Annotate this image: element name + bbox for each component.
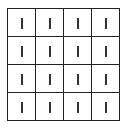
board-cell-r3-c0[interactable] <box>8 93 36 121</box>
vertical-line-icon <box>77 46 79 57</box>
game-board <box>7 8 120 121</box>
board-cell-r1-c3[interactable] <box>92 37 120 65</box>
board-cell-r3-c1[interactable] <box>36 93 64 121</box>
board-cell-r2-c1[interactable] <box>36 65 64 93</box>
board-cell-r1-c1[interactable] <box>36 37 64 65</box>
board-cell-r0-c3[interactable] <box>92 9 120 37</box>
board-cell-r2-c3[interactable] <box>92 65 120 93</box>
vertical-line-icon <box>21 46 23 57</box>
vertical-line-icon <box>105 18 107 29</box>
vertical-line-icon <box>49 102 51 113</box>
vertical-line-icon <box>77 102 79 113</box>
vertical-line-icon <box>105 102 107 113</box>
vertical-line-icon <box>21 102 23 113</box>
vertical-line-icon <box>105 74 107 85</box>
vertical-line-icon <box>77 74 79 85</box>
vertical-line-icon <box>49 18 51 29</box>
vertical-line-icon <box>49 74 51 85</box>
board-cell-r2-c0[interactable] <box>8 65 36 93</box>
board-cell-r3-c3[interactable] <box>92 93 120 121</box>
vertical-line-icon <box>21 74 23 85</box>
board-cell-r0-c0[interactable] <box>8 9 36 37</box>
board-cell-r3-c2[interactable] <box>64 93 92 121</box>
board-cell-r0-c2[interactable] <box>64 9 92 37</box>
board-cell-r2-c2[interactable] <box>64 65 92 93</box>
vertical-line-icon <box>77 18 79 29</box>
vertical-line-icon <box>49 46 51 57</box>
vertical-line-icon <box>105 46 107 57</box>
board-cell-r1-c0[interactable] <box>8 37 36 65</box>
board-cell-r1-c2[interactable] <box>64 37 92 65</box>
board-cell-r0-c1[interactable] <box>36 9 64 37</box>
vertical-line-icon <box>21 18 23 29</box>
